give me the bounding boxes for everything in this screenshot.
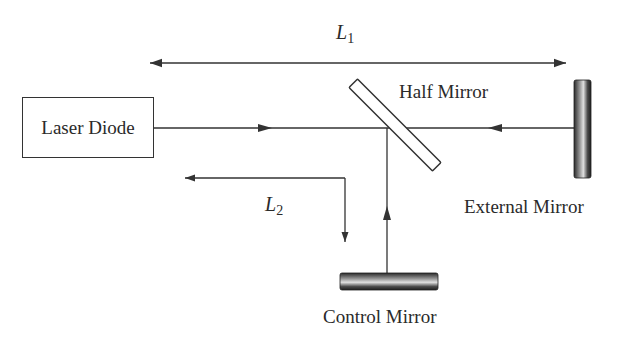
external-mirror-label: External Mirror bbox=[464, 197, 584, 216]
l1-label: L1 bbox=[336, 22, 354, 46]
control-mirror bbox=[340, 273, 438, 290]
main-beam bbox=[153, 124, 574, 132]
beam-arrow-left-icon bbox=[488, 124, 502, 132]
optical-diagram-canvas bbox=[0, 0, 629, 342]
beam-arrow-right-icon bbox=[258, 124, 272, 132]
control-mirror-label: Control Mirror bbox=[323, 307, 436, 326]
laser-diode-box: Laser Diode bbox=[22, 97, 154, 158]
external-mirror bbox=[574, 80, 591, 178]
control-beam bbox=[383, 128, 391, 274]
half-mirror-label: Half Mirror bbox=[399, 82, 488, 101]
l2-label: L2 bbox=[265, 194, 283, 218]
laser-diode-label: Laser Diode bbox=[41, 117, 134, 139]
beam-arrow-up-icon bbox=[383, 206, 391, 220]
